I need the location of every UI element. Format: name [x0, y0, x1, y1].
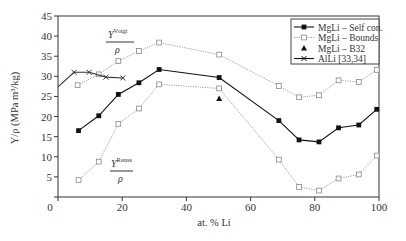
series-3	[216, 95, 222, 101]
data-point-marker	[217, 52, 222, 57]
legend-label: MgLi – Self con.	[318, 23, 383, 33]
legend-label: MgLi – B32	[318, 44, 365, 54]
data-point-marker	[116, 59, 121, 64]
y-tick-label: 15	[41, 131, 53, 143]
data-point-marker	[157, 82, 162, 87]
data-point-marker	[217, 86, 222, 91]
data-point-marker	[336, 176, 341, 181]
y-tick-label: 20	[41, 111, 53, 123]
voigt-numerator: YVoigt	[108, 27, 128, 40]
y-tick-label: 30	[41, 70, 53, 82]
data-point-marker	[216, 95, 222, 101]
data-point-marker	[96, 113, 101, 118]
data-point-marker	[302, 35, 307, 40]
legend: MgLi – Self con.MgLi – BoundsMgLi – B32A…	[291, 19, 383, 64]
series-line	[58, 72, 123, 86]
data-point-marker	[317, 188, 322, 193]
y-tick-label: 25	[41, 90, 53, 102]
data-point-marker	[302, 25, 307, 30]
reuss-annotation: YReuss ρ	[110, 156, 133, 184]
data-point-marker	[317, 139, 322, 144]
chart: 020406080100 51015202530354045 YVoigt ρ …	[0, 0, 406, 241]
x-tick-label: 60	[245, 201, 257, 213]
voigt-denominator: ρ	[114, 44, 120, 55]
legend-label: MgLi – Bounds	[318, 33, 378, 43]
y-axis-title: Y/ρ (MPa m³/kg)	[9, 71, 21, 144]
data-point-marker	[374, 107, 379, 112]
data-point-marker	[217, 75, 222, 80]
data-point-marker	[157, 40, 162, 45]
voigt-annotation: YVoigt ρ	[106, 27, 134, 55]
data-point-marker	[317, 93, 322, 98]
x-tick-label: 0	[47, 201, 53, 213]
data-point-marker	[336, 78, 341, 83]
data-point-marker	[374, 153, 379, 158]
data-point-marker	[276, 118, 281, 123]
y-axis: 51015202530354045	[41, 10, 58, 197]
reuss-denominator: ρ	[117, 173, 123, 184]
data-point-marker	[276, 157, 281, 162]
x-tick-label: 80	[309, 201, 321, 213]
data-point-marker	[116, 92, 121, 97]
y-tick-label: 45	[41, 10, 53, 22]
data-point-marker	[96, 159, 101, 164]
x-axis-title: at. % Li	[197, 217, 231, 228]
data-point-marker	[356, 123, 361, 128]
data-point-marker	[276, 84, 281, 89]
data-point-marker	[374, 67, 379, 72]
x-axis: 020406080100	[47, 197, 388, 213]
data-point-marker	[136, 49, 141, 54]
data-point-marker	[297, 95, 302, 100]
data-point-marker	[136, 106, 141, 111]
y-tick-label: 40	[41, 30, 53, 42]
reuss-numerator: YReuss	[111, 156, 133, 169]
y-tick-label: 35	[41, 50, 53, 62]
series-line	[79, 84, 377, 190]
y-tick-label: 10	[41, 151, 53, 163]
y-tick-label: 5	[47, 171, 53, 183]
data-point-marker	[297, 137, 302, 142]
data-point-marker	[136, 80, 141, 85]
data-point-marker	[356, 80, 361, 85]
legend-label: AlLi [33,34]	[318, 54, 366, 64]
data-point-marker	[336, 125, 341, 130]
data-point-marker	[76, 128, 81, 133]
data-point-marker	[356, 172, 361, 177]
data-point-marker	[157, 67, 162, 72]
data-point-marker	[116, 121, 121, 126]
x-tick-label: 100	[371, 201, 388, 213]
series-line	[79, 69, 377, 141]
series-4	[58, 70, 125, 87]
data-point-marker	[75, 83, 80, 88]
data-point-marker	[297, 185, 302, 190]
x-tick-label: 20	[117, 201, 129, 213]
data-point-marker	[76, 178, 81, 183]
x-tick-label: 40	[181, 201, 193, 213]
